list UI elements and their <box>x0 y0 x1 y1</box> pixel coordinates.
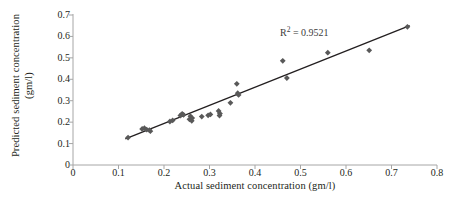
scatter-chart-figure: Predicted sediment concentration (gm/l) … <box>0 0 450 203</box>
data-point-marker <box>125 135 131 141</box>
x-tick-label: 0.8 <box>422 168 450 178</box>
data-point-marker <box>199 114 205 120</box>
data-point-marker <box>366 47 372 53</box>
r-squared-symbol: R2 <box>280 27 290 38</box>
x-tick-label: 0.5 <box>286 168 316 178</box>
data-point-marker <box>228 100 234 106</box>
x-tick-label: 0.1 <box>104 168 134 178</box>
data-point-marker <box>280 58 286 64</box>
data-point-marker <box>325 50 331 56</box>
x-tick-label: 0.7 <box>377 168 407 178</box>
x-tick-label: 0.4 <box>240 168 270 178</box>
x-tick-label: 0.6 <box>331 168 361 178</box>
data-point-marker <box>234 81 240 87</box>
r-squared-value: = 0.9521 <box>290 27 328 38</box>
x-tick-label: 0 <box>58 168 88 178</box>
r-squared-annotation: R2 = 0.9521 <box>280 25 329 38</box>
axis-tick-marks <box>69 15 437 169</box>
data-point-marker <box>405 24 411 30</box>
x-tick-label: 0.3 <box>195 168 225 178</box>
x-axis-title: Actual sediment concentration (gm/l) <box>60 180 450 191</box>
x-tick-label: 0.2 <box>149 168 179 178</box>
